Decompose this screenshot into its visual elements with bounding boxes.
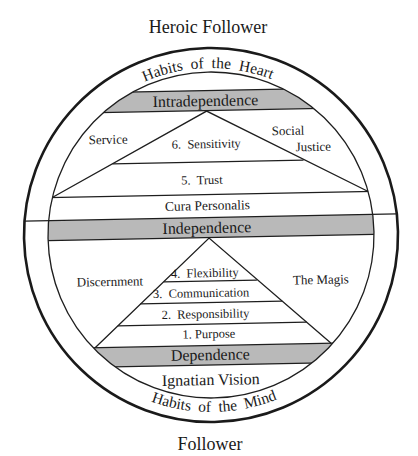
cura-personalis-label: Cura Personalis: [165, 197, 250, 214]
service-label: Service: [89, 132, 128, 148]
lower-level-line: [118, 322, 307, 326]
independence-label: Independence: [162, 218, 251, 238]
social-label: Social: [272, 123, 305, 139]
lower-level-line: [140, 301, 282, 304]
divider-line: [39, 191, 379, 198]
dependence-label: Dependence: [171, 345, 250, 365]
the-magis-label: The Magis: [293, 271, 349, 287]
circle-model: Habits of the Heart Habits of the Mind I…: [0, 0, 411, 426]
top-title: Heroic Follower: [149, 17, 267, 37]
level-5-trust: 5. Trust: [181, 173, 223, 188]
level-1-purpose: 1. Purpose: [182, 327, 235, 342]
intradependence-label: Intradependence: [152, 91, 258, 111]
upper-level-line: [113, 160, 304, 164]
level-4-flexibility: 4. Flexibility: [171, 265, 240, 280]
level-2-responsibility: 2. Responsibility: [161, 306, 250, 322]
ignatian-vision-label: Ignatian Vision: [162, 370, 260, 390]
level-6-sensitivity: 6. Sensitivity: [172, 136, 242, 151]
justice-label: Justice: [295, 139, 331, 155]
leadership-diagram: Heroic Follower: [0, 0, 418, 456]
discernment-label: Discernment: [77, 273, 144, 289]
bottom-title: Follower: [178, 434, 243, 454]
level-3-communication: 3. Communication: [153, 285, 250, 301]
